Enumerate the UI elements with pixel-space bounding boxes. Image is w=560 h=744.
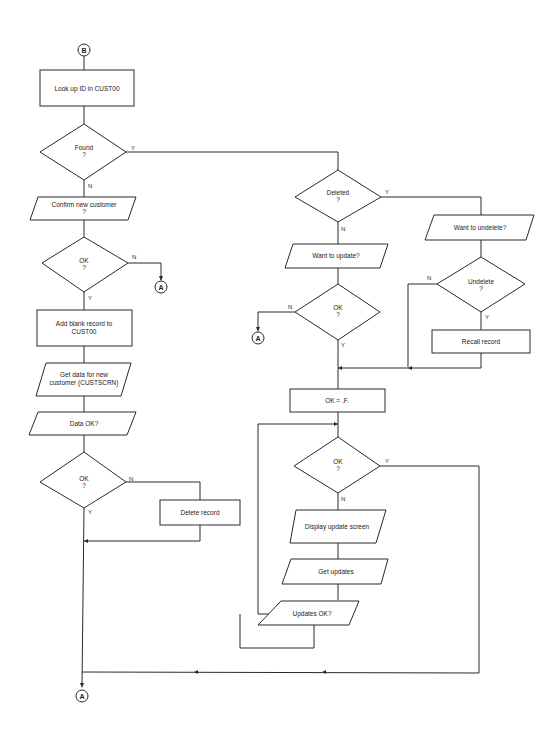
svg-text:N: N: [288, 304, 292, 310]
connector-a-1: A: [155, 281, 167, 293]
decision-ok-3: OK ?: [295, 284, 380, 340]
svg-text:N: N: [129, 476, 133, 482]
svg-text:customer (CUSTSCRN): customer (CUSTSCRN): [50, 379, 119, 387]
svg-text:N: N: [341, 496, 345, 502]
io-updates-ok: Updates OK?: [258, 601, 359, 625]
decision-found: Found ?: [40, 124, 126, 180]
process-delete-record: Delete record: [160, 500, 240, 525]
decision-deleted: Deleted ?: [295, 170, 381, 222]
decision-undelete: Undelete ?: [437, 257, 525, 312]
svg-text:Delete record: Delete record: [180, 509, 219, 516]
svg-text:N: N: [427, 275, 431, 281]
svg-text:OK: OK: [333, 458, 343, 465]
svg-text:Deleted: Deleted: [327, 189, 350, 196]
io-display-update: Display update screen: [290, 510, 386, 543]
process-add-blank: Add blank record to CUST00: [37, 310, 132, 346]
svg-text:Get data for new: Get data for new: [60, 371, 108, 378]
svg-text:Y: Y: [88, 295, 92, 301]
svg-text:OK: OK: [79, 257, 89, 264]
svg-text:?: ?: [336, 196, 340, 203]
process-ok-false: OK = .F.: [290, 389, 385, 412]
svg-text:Want to update?: Want to update?: [312, 252, 360, 260]
svg-text:CUST00: CUST00: [72, 328, 97, 335]
svg-text:A: A: [79, 693, 84, 700]
svg-text:A: A: [158, 284, 163, 291]
svg-text:B: B: [81, 47, 86, 54]
io-get-updates: Get updates: [282, 559, 388, 584]
svg-text:?: ?: [82, 482, 86, 489]
io-get-data: Get data for new customer (CUSTSCRN): [36, 363, 131, 396]
svg-text:Confirm new customer: Confirm new customer: [51, 201, 117, 208]
svg-text:Look up ID in CUST00: Look up ID in CUST00: [54, 85, 119, 93]
svg-text:OK = .F.: OK = .F.: [325, 397, 349, 404]
process-lookup: Look up ID in CUST00: [40, 70, 134, 106]
io-confirm-new: Confirm new customer ?: [30, 197, 136, 220]
svg-text:?: ?: [82, 208, 86, 215]
io-data-ok: Data OK?: [29, 412, 136, 435]
decision-ok-1: OK ?: [42, 237, 128, 292]
svg-text:Y: Y: [131, 145, 135, 151]
svg-text:Found: Found: [75, 144, 94, 151]
svg-text:Y: Y: [385, 189, 389, 195]
svg-text:Want to undelete?: Want to undelete?: [454, 224, 507, 231]
svg-text:?: ?: [336, 465, 340, 472]
svg-text:Undelete: Undelete: [468, 278, 494, 285]
connector-a-end: A: [76, 690, 88, 702]
svg-text:A: A: [255, 335, 260, 342]
process-recall-record: Recall record: [432, 330, 530, 353]
svg-text:N: N: [132, 254, 136, 260]
svg-text:Y: Y: [341, 342, 345, 348]
svg-text:Y: Y: [385, 458, 389, 464]
svg-text:?: ?: [82, 151, 86, 158]
svg-text:?: ?: [479, 285, 483, 292]
io-want-update: Want to update?: [285, 244, 388, 268]
svg-text:Recall record: Recall record: [462, 338, 501, 345]
flowchart: B Look up ID in CUST00 Found ? Y N Confi…: [0, 0, 560, 744]
svg-text:?: ?: [82, 264, 86, 271]
svg-text:Y: Y: [88, 509, 92, 515]
svg-text:Y: Y: [485, 314, 489, 320]
connector-b: B: [78, 44, 90, 56]
svg-text:Get updates: Get updates: [318, 568, 354, 576]
decision-ok-4: OK ?: [294, 437, 380, 493]
svg-text:N: N: [341, 226, 345, 232]
svg-text:Add blank record to: Add blank record to: [56, 320, 113, 327]
io-want-undelete: Want to undelete?: [425, 215, 534, 240]
svg-text:Data OK?: Data OK?: [70, 420, 99, 427]
svg-text:Display update screen: Display update screen: [305, 523, 370, 531]
svg-text:?: ?: [336, 311, 340, 318]
svg-text:OK: OK: [79, 475, 89, 482]
decision-ok-2: OK ?: [40, 452, 126, 508]
svg-text:N: N: [88, 183, 92, 189]
svg-text:Updates OK?: Updates OK?: [292, 610, 331, 618]
connector-a-2: A: [252, 332, 264, 344]
svg-text:OK: OK: [333, 304, 343, 311]
